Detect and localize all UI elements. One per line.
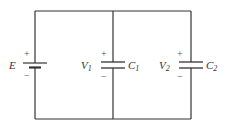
c1-plus-sign: + [101,48,107,59]
battery-label-e: E [8,59,16,71]
c1-voltage-label: V1 [81,59,92,73]
battery-plus-sign: + [24,48,30,59]
c2-capacitance-label: C2 [206,59,217,73]
c1-minus-sign: − [101,71,107,82]
capacitor-c1-symbol [101,62,125,68]
c2-minus-sign: − [177,71,183,82]
c1-capacitance-label: C1 [128,59,139,73]
capacitor-c2-symbol [179,62,203,68]
battery-minus-sign: − [24,70,30,81]
battery-symbol [23,63,47,68]
c2-voltage-label: V2 [159,59,170,73]
c2-plus-sign: + [177,48,183,59]
circuit-diagram: + − E + − V1 C1 + − V2 C2 [0,0,226,130]
